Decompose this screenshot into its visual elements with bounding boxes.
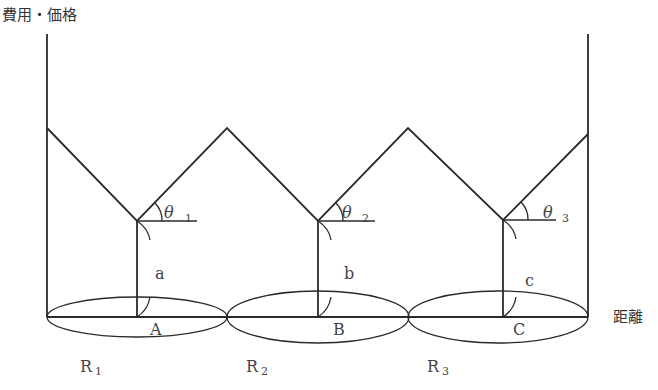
region-sub-r2: 2: [261, 365, 268, 378]
region-label-r3: R: [427, 357, 440, 376]
arc-top-b: [318, 221, 331, 240]
x-axis-label: 距離: [613, 308, 643, 326]
center-label-c: C: [513, 320, 525, 339]
center-label-b: B: [333, 320, 345, 339]
delivered-price-line: [47, 128, 588, 221]
market-b: θ 2 b B R 2: [227, 203, 409, 378]
market-a: θ 1 a A R 1: [47, 203, 227, 378]
theta1-subscript: 1: [185, 212, 192, 225]
arc-bottom-b: [318, 297, 331, 317]
y-axis-label: 費用・価格: [2, 6, 77, 24]
angle-arc-theta1: [155, 203, 162, 221]
theta2-label: θ: [342, 203, 352, 222]
height-label-c: c: [525, 271, 534, 290]
theta2-subscript: 2: [362, 212, 369, 225]
market-c: θ 3 c C R 3: [408, 202, 588, 378]
theta1-label: θ: [164, 203, 174, 222]
region-sub-r3: 3: [442, 365, 449, 378]
region-label-r2: R: [246, 357, 259, 376]
region-sub-r1: 1: [95, 365, 102, 378]
arc-bottom-a: [137, 297, 150, 317]
height-label-a: a: [155, 264, 165, 283]
region-label-r1: R: [80, 357, 93, 376]
arc-bottom-c: [503, 297, 516, 317]
arc-top-c: [503, 220, 516, 239]
theta3-label: θ: [543, 203, 553, 222]
arc-top-a: [137, 221, 150, 240]
height-label-b: b: [344, 264, 354, 283]
angle-arc-theta3: [521, 202, 528, 220]
spatial-price-diagram: 費用・価格 距離 θ 1 a A R 1 θ 2 b B R 2: [0, 0, 658, 390]
center-label-a: A: [149, 320, 162, 339]
theta3-subscript: 3: [562, 212, 569, 225]
